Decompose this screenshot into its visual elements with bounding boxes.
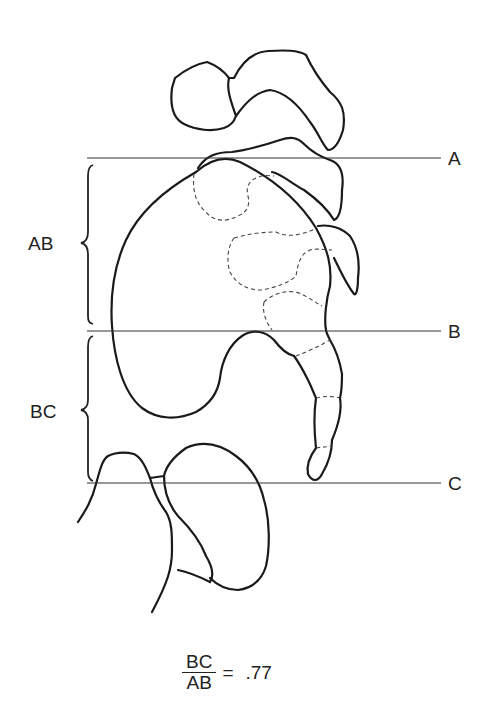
- brace-label-bc: BC: [30, 401, 56, 422]
- equals-sign: =: [222, 662, 233, 684]
- ratio-fraction: BC AB: [182, 652, 216, 693]
- pelvis-lower: [78, 444, 269, 612]
- ilium: [112, 159, 331, 418]
- sacral-ratio-formula: BC AB = .77: [182, 652, 272, 693]
- lumbar-vertebra: [171, 50, 344, 150]
- brace-bc: BC: [30, 336, 93, 481]
- reference-line-a: A: [87, 148, 461, 169]
- reference-line-c: C: [87, 473, 462, 494]
- line-label-b: B: [448, 321, 461, 342]
- sacral-diagram: A B C AB BC: [0, 0, 490, 712]
- brace-label-ab: AB: [28, 233, 53, 254]
- sacral-process: [318, 225, 359, 294]
- line-label-a: A: [448, 148, 461, 169]
- ratio-value: .77: [246, 662, 272, 684]
- brace-ab: AB: [28, 165, 93, 324]
- fraction-numerator: BC: [182, 652, 216, 673]
- fraction-denominator: AB: [183, 673, 216, 693]
- line-label-c: C: [448, 473, 462, 494]
- coccyx: [294, 330, 342, 480]
- sacral-foramina: [194, 174, 333, 330]
